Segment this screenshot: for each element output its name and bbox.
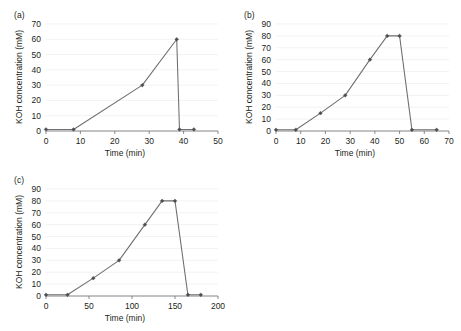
svg-text:80: 80 (32, 196, 42, 206)
plot-area-b: 0102030405060700102030405060708090 (230, 0, 461, 165)
svg-text:0: 0 (44, 301, 49, 311)
svg-text:90: 90 (32, 184, 42, 194)
svg-text:70: 70 (32, 208, 42, 218)
svg-text:0: 0 (36, 126, 41, 136)
svg-text:30: 30 (144, 136, 154, 146)
svg-text:10: 10 (296, 136, 306, 146)
svg-text:40: 40 (32, 243, 42, 253)
svg-text:50: 50 (32, 50, 42, 60)
svg-text:30: 30 (345, 136, 355, 146)
plot-area-a: 01020304050010203040506070 (0, 0, 230, 165)
svg-text:50: 50 (395, 136, 405, 146)
svg-text:70: 70 (32, 19, 42, 29)
chart-panel-b: (b) KOH concentration (mM) Time (min) 01… (230, 0, 461, 165)
figure-kohp-gradients: (a) KOH concentration (mM) Time (min) 01… (0, 0, 461, 331)
chart-panel-c: (c) KOH concentration (mM) Time (min) 05… (0, 165, 230, 331)
svg-text:80: 80 (262, 31, 272, 41)
svg-text:90: 90 (262, 19, 272, 29)
svg-text:60: 60 (420, 136, 430, 146)
svg-text:30: 30 (262, 90, 272, 100)
svg-text:20: 20 (262, 102, 272, 112)
svg-text:40: 40 (262, 78, 272, 88)
svg-text:50: 50 (84, 301, 94, 311)
svg-text:20: 20 (32, 95, 42, 105)
svg-text:200: 200 (211, 301, 225, 311)
svg-text:20: 20 (110, 136, 120, 146)
svg-text:30: 30 (32, 80, 42, 90)
svg-text:60: 60 (32, 34, 42, 44)
svg-text:50: 50 (262, 67, 272, 77)
svg-text:0: 0 (274, 136, 279, 146)
svg-text:40: 40 (32, 65, 42, 75)
svg-text:0: 0 (266, 126, 271, 136)
svg-text:150: 150 (168, 301, 182, 311)
svg-text:40: 40 (179, 136, 189, 146)
svg-text:20: 20 (32, 267, 42, 277)
plot-area-c: 0501001502000102030405060708090 (0, 165, 230, 331)
svg-text:20: 20 (321, 136, 331, 146)
svg-text:0: 0 (44, 136, 49, 146)
svg-text:100: 100 (125, 301, 139, 311)
chart-panel-a: (a) KOH concentration (mM) Time (min) 01… (0, 0, 230, 165)
svg-text:50: 50 (32, 232, 42, 242)
svg-text:0: 0 (36, 291, 41, 301)
svg-text:10: 10 (262, 114, 272, 124)
svg-text:10: 10 (32, 279, 42, 289)
svg-text:50: 50 (213, 136, 223, 146)
svg-text:10: 10 (76, 136, 86, 146)
svg-text:40: 40 (370, 136, 380, 146)
svg-text:70: 70 (444, 136, 454, 146)
svg-text:60: 60 (262, 55, 272, 65)
svg-text:10: 10 (32, 111, 42, 121)
svg-text:60: 60 (32, 220, 42, 230)
svg-text:30: 30 (32, 255, 42, 265)
svg-text:70: 70 (262, 43, 272, 53)
